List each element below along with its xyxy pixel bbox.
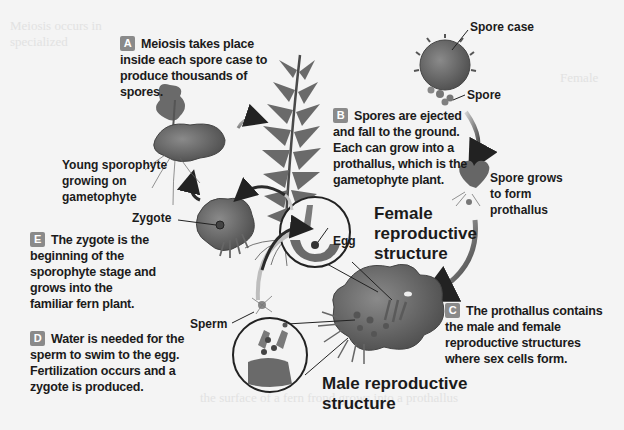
step-e-badge: E — [30, 232, 45, 247]
label-zygote: Zygote — [132, 211, 171, 226]
step-e-caption: EThe zygote is the beginning of the spor… — [30, 232, 190, 312]
label-sperm: Sperm — [190, 317, 227, 332]
prothallus-illustration — [318, 264, 444, 364]
step-a-caption: AMeiosis takes place inside each spore c… — [120, 36, 290, 100]
label-female-structure: Female reproductive structure — [374, 204, 477, 264]
label-spore-grows: Spore grows to form prothallus — [490, 170, 563, 218]
label-young-sporophyte: Young sporophyte growing on gametophyte — [62, 157, 167, 205]
male-structure-closeup — [233, 318, 307, 392]
label-egg: Egg — [333, 234, 356, 249]
label-male-structure: Male reproductive structure — [322, 374, 468, 414]
step-b-badge: B — [333, 108, 348, 123]
step-d-caption: DWater is needed for the sperm to swim t… — [30, 331, 210, 395]
label-spore: Spore — [467, 88, 501, 103]
step-c-caption: CThe prothallus contains the male and fe… — [445, 303, 624, 367]
label-spore-case: Spore case — [470, 20, 534, 35]
step-c-badge: C — [445, 303, 460, 318]
step-d-badge: D — [30, 331, 45, 346]
step-b-caption: BSpores are ejected and fall to the grou… — [333, 108, 483, 188]
step-a-badge: A — [120, 36, 135, 51]
